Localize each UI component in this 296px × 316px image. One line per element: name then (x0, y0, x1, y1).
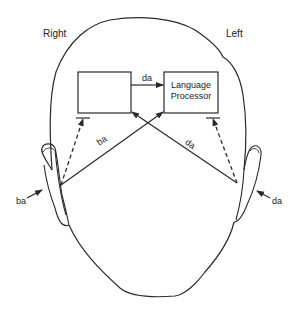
right-side-label: Right (43, 29, 66, 39)
left-side-label: Left (226, 29, 243, 39)
left-ear-fold (250, 149, 259, 153)
jaw-outline (69, 222, 234, 297)
right-ear-ipsilateral-arrow (61, 119, 83, 185)
diagram-graphics (0, 0, 296, 316)
language-processor-label: Language Processor (164, 80, 218, 102)
right-ear-input-arrow (27, 190, 42, 198)
language-processor-line1: Language (164, 80, 218, 91)
right-ear-fold (43, 148, 54, 152)
left-ear-input-arrow (257, 191, 270, 198)
language-processor-line2: Processor (164, 91, 218, 102)
right-hemisphere-box (78, 72, 131, 113)
left-head-side (236, 170, 244, 220)
left-ear-contralateral-arrow (132, 112, 237, 183)
left-ear-ipsilateral-arrow (213, 119, 237, 183)
head-diagram: Right Left Language Processor da ba da b… (0, 0, 296, 316)
callosal-arrow-label: da (142, 73, 152, 83)
left-ear-input-label: da (272, 196, 282, 206)
right-ear-input-label: ba (16, 196, 26, 206)
